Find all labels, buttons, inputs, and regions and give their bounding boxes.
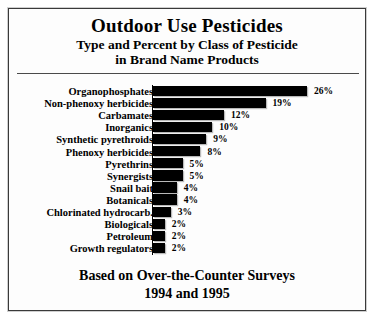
- bar-category-label: Petroleum: [107, 231, 153, 242]
- bar-row: Synergists5%: [9, 170, 367, 182]
- bar-row: Snail bait4%: [9, 182, 367, 194]
- bar-value-label: 2%: [172, 243, 186, 253]
- bar-row: Petroleum2%: [9, 230, 367, 242]
- bar-row: Chlorinated hydrocarb.3%: [9, 206, 367, 218]
- bar: [153, 146, 200, 156]
- footer-source-line-2: 1994 and 1995: [9, 285, 365, 303]
- chart-subtitle-line-1: Type and Percent by Class of Pesticide: [9, 37, 365, 52]
- bar: [153, 243, 165, 253]
- bar-category-label: Growth regulators: [70, 243, 153, 254]
- plot-area: Organophosphates26%Non-phenoxy herbicide…: [9, 85, 367, 263]
- bar-value-label: 10%: [219, 122, 238, 132]
- bar-value-label: 12%: [231, 110, 250, 120]
- bar-category-label: Carbamates: [98, 110, 153, 121]
- bar-value-label: 8%: [207, 147, 221, 157]
- bar: [153, 86, 307, 96]
- bar-category-label: Botanicals: [106, 194, 153, 205]
- bar-row: Botanicals4%: [9, 194, 367, 206]
- bar-row: Growth regulators2%: [9, 242, 367, 254]
- bar: [153, 194, 177, 204]
- bar-row: Phenoxy herbicides8%: [9, 146, 367, 158]
- bar-category-label: Biologicals: [105, 219, 153, 230]
- bar: [153, 207, 171, 217]
- bar-row: Carbamates12%: [9, 109, 367, 121]
- bar-value-label: 19%: [273, 98, 292, 108]
- bar-value-label: 2%: [172, 231, 186, 241]
- bar-row: Synthetic pyrethroids9%: [9, 133, 367, 145]
- bar-category-label: Snail bait: [110, 182, 153, 193]
- bar: [153, 98, 266, 108]
- bar-row: Non-phenoxy herbicides19%: [9, 97, 367, 109]
- bar-value-label: 3%: [178, 207, 192, 217]
- bar-category-label: Synthetic pyrethroids: [56, 134, 153, 145]
- chart-subtitle-line-2: in Brand Name Products: [9, 52, 365, 67]
- bar-value-label: 4%: [184, 195, 198, 205]
- bar-row: Biologicals2%: [9, 218, 367, 230]
- bar: [153, 134, 206, 144]
- bar: [153, 219, 165, 229]
- title-block: Outdoor Use Pesticides Type and Percent …: [9, 9, 365, 67]
- bar-category-label: Pyrethrins: [105, 158, 153, 169]
- footer-source-line-1: Based on Over-the-Counter Surveys: [9, 267, 365, 285]
- bar-value-label: 2%: [172, 219, 186, 229]
- bar-value-label: 5%: [190, 171, 204, 181]
- bar: [153, 182, 177, 192]
- bar-category-label: Non-phenoxy herbicides: [44, 98, 153, 109]
- bar-value-label: 9%: [213, 134, 227, 144]
- chart-title: Outdoor Use Pesticides: [9, 16, 365, 36]
- bar-category-label: Chlorinated hydrocarb.: [46, 207, 153, 218]
- footer-block: Based on Over-the-Counter Surveys 1994 a…: [9, 267, 365, 303]
- bar-category-label: Synergists: [107, 170, 153, 181]
- bar: [153, 170, 183, 180]
- bar-value-label: 4%: [184, 183, 198, 193]
- bar: [153, 231, 165, 241]
- title-divider: [17, 73, 359, 74]
- bar: [153, 110, 224, 120]
- bar-category-label: Inorganics: [105, 122, 153, 133]
- chart-figure: Outdoor Use Pesticides Type and Percent …: [8, 8, 366, 311]
- bar-category-label: Organophosphates: [68, 86, 153, 97]
- bar-row: Organophosphates26%: [9, 85, 367, 97]
- bar-row: Pyrethrins5%: [9, 158, 367, 170]
- bar-value-label: 26%: [314, 86, 333, 96]
- bar-value-label: 5%: [190, 159, 204, 169]
- bar: [153, 158, 183, 168]
- bar: [153, 122, 212, 132]
- bar-row: Inorganics10%: [9, 121, 367, 133]
- bar-category-label: Phenoxy herbicides: [66, 146, 153, 157]
